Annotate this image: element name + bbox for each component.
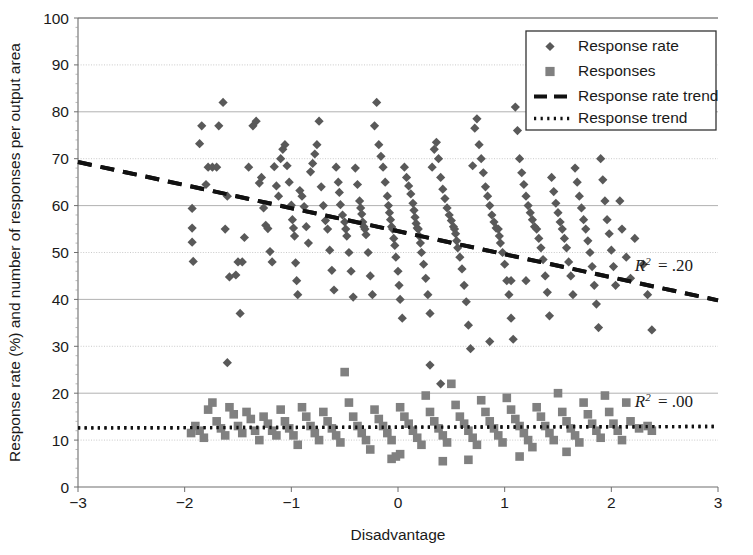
data-point (575, 438, 584, 447)
data-point (255, 436, 264, 445)
data-point (362, 436, 371, 445)
x-tick-label--2: −2 (176, 494, 194, 511)
legend-label-2: Response rate trend (578, 87, 718, 104)
data-point (426, 408, 435, 417)
data-point (340, 368, 349, 377)
data-point (618, 436, 627, 445)
data-point (417, 440, 426, 449)
data-point (605, 408, 614, 417)
data-point (464, 455, 473, 464)
y-tick-label-90: 90 (52, 56, 70, 73)
data-point (187, 429, 196, 438)
data-point (507, 405, 516, 414)
data-point (554, 389, 563, 398)
r-squared-annotation: R2 = .00 (634, 391, 693, 411)
data-point (473, 440, 482, 449)
x-tick-label-0: 0 (394, 494, 403, 511)
data-point (558, 408, 567, 417)
data-point (396, 403, 405, 412)
data-point (387, 436, 396, 445)
x-tick-label--1: −1 (282, 494, 300, 511)
r-squared-annotation: R2 = .20 (634, 255, 693, 275)
data-point (421, 391, 430, 400)
data-point (451, 401, 460, 410)
data-point (532, 403, 541, 412)
data-point (626, 417, 635, 426)
chart-container: 0102030405060708090100−3−2−10123R2 = .20… (0, 0, 753, 555)
data-point (528, 443, 537, 452)
data-point (272, 431, 281, 440)
x-axis-title: Disadvantage (351, 526, 446, 543)
data-point (349, 412, 358, 421)
data-point (579, 398, 588, 407)
y-tick-label-20: 20 (52, 385, 70, 402)
data-point (584, 410, 593, 419)
data-point (648, 426, 657, 435)
y-tick-label-100: 100 (43, 10, 69, 27)
data-point (238, 429, 247, 438)
data-point (549, 436, 558, 445)
data-point (298, 403, 307, 412)
y-axis-title: Response rate (%) and number of response… (6, 43, 23, 462)
data-point (276, 405, 285, 414)
legend-label-1: Responses (578, 62, 656, 79)
data-point (302, 412, 311, 421)
data-point (562, 448, 571, 457)
scatter-chart: 0102030405060708090100−3−2−10123R2 = .20… (0, 0, 753, 555)
data-point (503, 394, 512, 403)
data-point (396, 450, 405, 459)
data-point (596, 433, 605, 442)
y-tick-label-0: 0 (60, 479, 69, 496)
y-tick-label-70: 70 (52, 150, 70, 167)
legend-label-3: Response trend (578, 109, 687, 126)
y-tick-label-40: 40 (52, 291, 70, 308)
data-point (208, 398, 217, 407)
data-point (221, 431, 230, 440)
x-tick-label--3: −3 (69, 494, 87, 511)
data-point (387, 455, 396, 464)
data-point (345, 398, 354, 407)
x-tick-label-1: 1 (500, 494, 509, 511)
legend-label-0: Response rate (578, 37, 679, 54)
data-point (315, 436, 324, 445)
data-point (200, 433, 209, 442)
data-point (481, 408, 490, 417)
data-point (622, 398, 631, 407)
legend-marker-square (545, 67, 554, 76)
data-point (601, 391, 610, 400)
y-tick-label-60: 60 (52, 197, 70, 214)
data-point (247, 415, 256, 424)
data-point (319, 408, 328, 417)
data-point (447, 380, 456, 389)
data-point (439, 457, 448, 466)
y-tick-label-80: 80 (52, 103, 70, 120)
data-point (537, 412, 546, 421)
data-point (336, 438, 345, 447)
y-tick-label-30: 30 (52, 338, 70, 355)
data-point (366, 445, 375, 454)
x-tick-label-2: 2 (607, 494, 616, 511)
data-point (293, 440, 302, 449)
data-point (498, 438, 507, 447)
data-point (229, 410, 238, 419)
x-tick-label-3: 3 (714, 494, 723, 511)
data-point (477, 396, 486, 405)
data-point (289, 431, 298, 440)
data-point (443, 438, 452, 447)
y-tick-label-10: 10 (52, 432, 70, 449)
data-point (515, 452, 524, 461)
data-point (370, 405, 379, 414)
y-tick-label-50: 50 (52, 244, 70, 261)
